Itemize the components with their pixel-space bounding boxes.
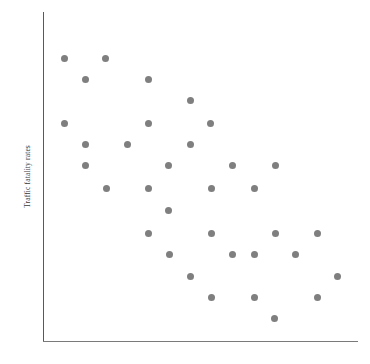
data-point [334, 273, 341, 280]
plot-area [43, 12, 358, 341]
data-point [103, 185, 110, 192]
data-point [165, 162, 172, 169]
data-point [82, 141, 89, 148]
data-point [82, 162, 89, 169]
data-point [314, 294, 321, 301]
y-axis-label: Traffic fatality rates [23, 0, 32, 359]
data-point [272, 230, 279, 237]
data-point [102, 55, 109, 62]
data-point [229, 251, 236, 258]
data-point [82, 76, 89, 83]
data-point [208, 185, 215, 192]
scatter-plot-figure: Traffic fatality rates [0, 0, 370, 364]
x-axis-line [43, 341, 358, 342]
data-point [145, 76, 152, 83]
data-point [251, 185, 258, 192]
data-point [187, 273, 194, 280]
data-point [208, 294, 215, 301]
data-point [145, 185, 152, 192]
data-point [272, 162, 279, 169]
data-point [187, 97, 194, 104]
data-point [145, 120, 152, 127]
data-point [61, 120, 68, 127]
data-point [271, 315, 278, 322]
data-point [251, 251, 258, 258]
data-point [145, 230, 152, 237]
data-point [165, 207, 172, 214]
data-point [61, 55, 68, 62]
data-point [207, 120, 214, 127]
data-point [124, 141, 131, 148]
data-point [187, 141, 194, 148]
data-point [251, 294, 258, 301]
data-point [166, 251, 173, 258]
data-point [292, 251, 299, 258]
data-point [208, 230, 215, 237]
data-point [314, 230, 321, 237]
data-point [229, 162, 236, 169]
